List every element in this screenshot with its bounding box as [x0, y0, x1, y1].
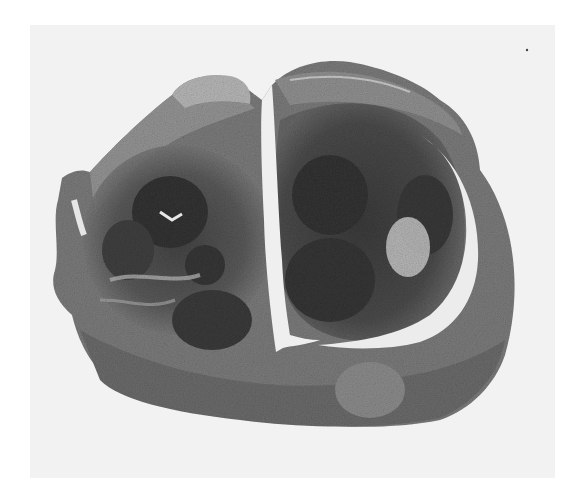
- tissue-section-image: [0, 0, 585, 499]
- dust-speck: [526, 49, 528, 51]
- tissue-mass: [53, 61, 514, 427]
